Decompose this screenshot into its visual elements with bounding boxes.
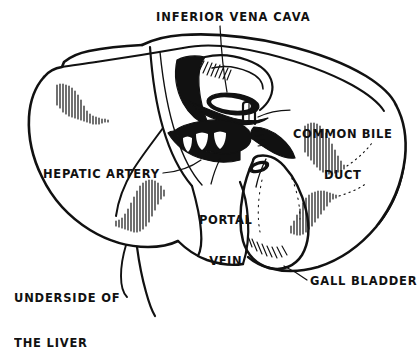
label-hepatic-artery: HEPATIC ARTERY xyxy=(43,167,160,181)
label-common-bile-duct-line1: COMMON BILE xyxy=(293,128,392,142)
label-common-bile-duct-line2: DUCT xyxy=(293,169,392,183)
label-portal-vein: PORTAL VEIN xyxy=(199,186,252,296)
figure-caption-line2: THE LIVER xyxy=(14,335,120,350)
label-gall-bladder: GALL BLADDER xyxy=(310,274,417,288)
figure-caption-line1: UNDERSIDE OF xyxy=(14,291,120,306)
label-portal-vein-line1: PORTAL xyxy=(199,214,252,228)
label-inferior-vena-cava: INFERIOR VENA CAVA xyxy=(156,10,310,24)
label-portal-vein-line2: VEIN xyxy=(199,255,252,269)
figure-caption: UNDERSIDE OF THE LIVER xyxy=(14,261,120,351)
label-common-bile-duct: COMMON BILE DUCT xyxy=(293,100,392,210)
